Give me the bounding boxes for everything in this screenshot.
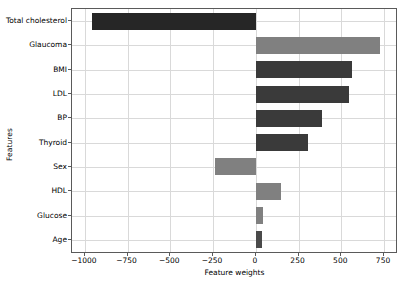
y-tick-mark — [68, 190, 71, 191]
y-tick-mark — [68, 20, 71, 21]
y-gridline — [72, 191, 396, 192]
x-tick-label: 0 — [235, 256, 275, 265]
y-tick-label: Thyroid — [39, 137, 67, 146]
y-tick-mark — [68, 239, 71, 240]
bar — [256, 134, 308, 151]
bar — [256, 61, 352, 78]
y-tick-mark — [68, 44, 71, 45]
y-tick-mark — [68, 93, 71, 94]
bar-chart-figure: Features Feature weights −1000−750−500−2… — [0, 0, 416, 289]
x-tick-label: −250 — [192, 256, 232, 265]
y-tick-label: BMI — [53, 64, 67, 73]
bar — [256, 110, 322, 127]
y-tick-label: Total cholesterol — [6, 16, 67, 25]
x-tick-label: 250 — [278, 256, 318, 265]
plot-area — [71, 8, 397, 253]
y-tick-mark — [68, 117, 71, 118]
y-gridline — [72, 216, 396, 217]
x-axis-title: Feature weights — [71, 268, 398, 277]
x-tick-label: −1000 — [64, 256, 104, 265]
y-gridline — [72, 118, 396, 119]
bar — [256, 207, 263, 224]
bar — [256, 86, 349, 103]
x-tick-label: 750 — [363, 256, 403, 265]
x-tick-label: −750 — [107, 256, 147, 265]
y-tick-label: HDL — [51, 186, 67, 195]
y-tick-mark — [68, 166, 71, 167]
y-gridline — [72, 143, 396, 144]
y-tick-label: LDL — [53, 89, 67, 98]
x-tick-label: −500 — [149, 256, 189, 265]
bar — [256, 37, 380, 54]
bar — [215, 158, 256, 175]
bar — [256, 231, 262, 248]
x-tick-label: 500 — [320, 256, 360, 265]
y-tick-label: BP — [57, 113, 67, 122]
y-tick-mark — [68, 215, 71, 216]
y-gridline — [72, 240, 396, 241]
y-tick-label: Glucose — [37, 210, 67, 219]
y-tick-mark — [68, 69, 71, 70]
y-tick-mark — [68, 142, 71, 143]
bar — [256, 183, 282, 200]
y-axis-title: Features — [0, 0, 18, 289]
y-tick-label: Sex — [53, 161, 67, 170]
y-tick-label: Glaucoma — [29, 40, 67, 49]
bar — [92, 13, 256, 30]
y-tick-label: Age — [52, 234, 67, 243]
